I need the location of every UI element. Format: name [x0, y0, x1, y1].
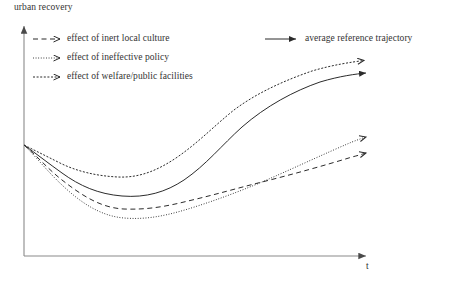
curve-ineffective-policy [24, 137, 366, 218]
legend-label-welfare-public-facilities: effect of welfare/public facilities [67, 71, 193, 81]
urban-recovery-figure: urban recovery t effect of inert local c… [0, 0, 451, 282]
y-axis-label: urban recovery [14, 2, 73, 12]
curves-group [24, 61, 366, 219]
curve-average-reference-trajectory [24, 73, 366, 196]
legend-label-average-reference-trajectory: average reference trajectory [305, 33, 412, 43]
legend-label-ineffective-policy: effect of ineffective policy [67, 52, 169, 62]
curve-inert-local-culture [24, 145, 366, 209]
x-axis-label: t [366, 261, 369, 271]
legend-label-inert-local-culture: effect of inert local culture [67, 33, 170, 43]
